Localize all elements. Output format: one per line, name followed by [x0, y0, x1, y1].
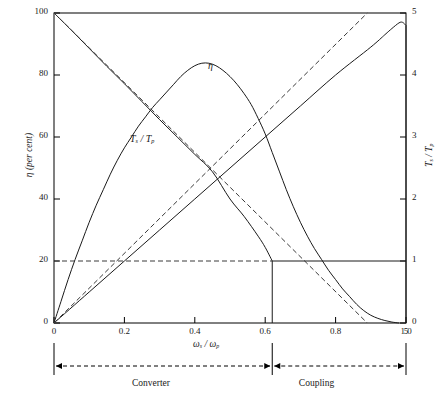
left-axis-title: η (per cent)	[24, 115, 34, 195]
right-axis-title-num: T	[424, 161, 434, 166]
right-tick-label-1: 1	[412, 254, 428, 264]
right-axis-title-den: T	[424, 146, 434, 151]
region-bracket-group	[54, 343, 406, 375]
left-tick-label-0: 0	[24, 316, 48, 326]
x-tick-label-0.4: 0.4	[181, 326, 209, 336]
left-axis-title-text: η (per cent)	[24, 133, 34, 177]
x-tick-label-0.8: 0.8	[322, 326, 350, 336]
left-tick-label-20: 20	[24, 254, 48, 264]
x-axis-title-sub-p: p	[216, 343, 219, 349]
right-tick-label-4: 4	[412, 68, 428, 78]
x-axis-title: ωs / ωp	[193, 339, 219, 349]
chart-series-group	[54, 13, 406, 323]
region-label-coupling: Coupling	[248, 378, 385, 388]
right-axis-title-slash: /	[424, 152, 434, 159]
torque-label-sub-p: p	[151, 137, 154, 144]
right-axis-ticks	[400, 13, 406, 323]
chart-canvas	[0, 0, 443, 398]
left-axis-ticks	[54, 13, 60, 323]
eta-curve-label: η	[208, 60, 213, 71]
right-tick-label-2: 2	[412, 192, 428, 202]
x-axis-title-num: ω	[193, 339, 200, 349]
region-arrow-head-left	[274, 363, 280, 369]
torque-label-slash: /	[138, 133, 146, 144]
left-tick-label-80: 80	[24, 68, 48, 78]
region-label-coupling-text: Coupling	[299, 378, 334, 388]
x-tick-label-0.2: 0.2	[110, 326, 138, 336]
x-tick-label-0: 0	[40, 326, 68, 336]
series-T_s / T_p	[54, 13, 272, 261]
x-tick-label-0.6: 0.6	[251, 326, 279, 336]
right-tick-label-5: 5	[412, 6, 428, 16]
figure-container: 020406080100 012345 00.20.40.60.81.05 η …	[0, 0, 443, 398]
right-axis-title-sub-s: s	[428, 159, 434, 161]
region-label-converter: Converter	[54, 378, 248, 388]
right-tick-label-0: 0	[412, 316, 428, 326]
region-arrow-head-left	[56, 363, 62, 369]
x-axis-ticks	[54, 317, 406, 323]
region-label-converter-text: Converter	[132, 378, 170, 388]
right-axis-zero-label: 5	[392, 326, 420, 336]
eta-curve-label-text: η	[208, 60, 213, 71]
right-axis-title-sub-p: p	[428, 144, 434, 147]
series-output-power-rising	[54, 22, 406, 323]
right-axis-title: Ts / Tp	[424, 120, 434, 190]
torque-ratio-curve-label: Ts / Tp	[130, 133, 154, 144]
left-tick-label-100: 100	[24, 6, 48, 16]
